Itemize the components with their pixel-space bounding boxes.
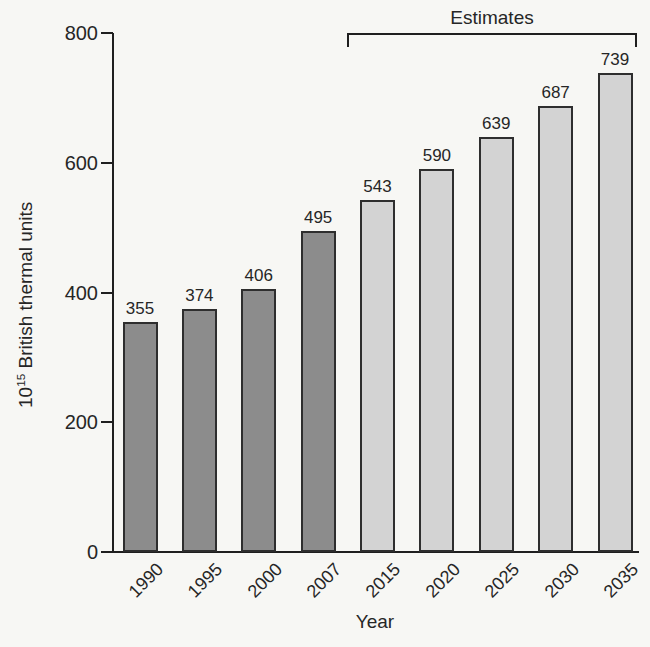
y-tick-label-400: 400 — [38, 281, 98, 305]
bar-value-label-1995: 374 — [164, 285, 234, 306]
x-tick-label-2007: 2007 — [303, 559, 345, 601]
y-tick-mark-200 — [101, 421, 113, 423]
bar-value-label-2007: 495 — [283, 207, 353, 228]
y-tick-label-200: 200 — [38, 410, 98, 434]
x-tick-label-1990: 1990 — [125, 559, 167, 601]
x-tick-label-2015: 2015 — [362, 559, 404, 601]
y-tick-mark-600 — [101, 162, 113, 164]
bar-2030 — [538, 106, 573, 552]
y-tick-label-600: 600 — [38, 151, 98, 175]
x-tick-label-2020: 2020 — [422, 559, 464, 601]
y-tick-mark-800 — [101, 32, 113, 34]
bar-value-label-2030: 687 — [521, 82, 591, 103]
y-axis-title-base: 10 — [15, 387, 36, 408]
y-tick-label-0: 0 — [38, 540, 98, 564]
bar-value-label-2035: 739 — [580, 49, 650, 70]
bar-2015 — [360, 200, 395, 552]
bar-2007 — [301, 231, 336, 552]
estimates-annotation-label: Estimates — [392, 7, 592, 29]
x-tick-label-2025: 2025 — [481, 559, 523, 601]
bar-2025 — [479, 137, 514, 552]
y-tick-label-800: 800 — [38, 21, 98, 45]
bar-1995 — [182, 309, 217, 552]
estimates-bracket — [347, 33, 637, 47]
x-tick-label-1995: 1995 — [184, 559, 226, 601]
bar-1990 — [123, 322, 158, 552]
y-axis-title-exponent: 15 — [14, 374, 27, 387]
bar-2000 — [241, 289, 276, 552]
bar-2020 — [419, 169, 454, 552]
bar-value-label-2015: 543 — [343, 176, 413, 197]
x-tick-label-2000: 2000 — [243, 559, 285, 601]
bar-chart: 1015 British thermal units Estimates 020… — [0, 0, 650, 647]
x-tick-label-2030: 2030 — [540, 559, 582, 601]
bar-value-label-2020: 590 — [402, 145, 472, 166]
y-axis-title: 1015 British thermal units — [14, 202, 37, 408]
y-tick-mark-400 — [101, 292, 113, 294]
bar-value-label-2000: 406 — [224, 265, 294, 286]
x-axis-title: Year — [330, 611, 420, 633]
x-tick-label-2035: 2035 — [600, 559, 642, 601]
y-axis-title-rest: British thermal units — [15, 202, 36, 374]
bar-value-label-2025: 639 — [461, 113, 531, 134]
bar-2035 — [598, 73, 633, 552]
